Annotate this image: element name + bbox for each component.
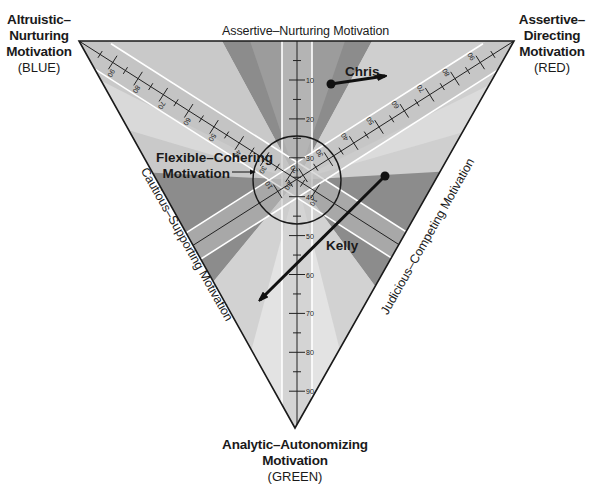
vertical-axis-tick-label: 90 [306,388,314,395]
flexible-cohering-label: Flexible–Cohering Motivation [156,150,264,182]
vertical-axis-tick-label: 30 [306,155,314,162]
vertical-axis-tick-label: 80 [306,349,314,356]
person-label-chris: Chris [345,64,380,79]
person-label-kelly: Kelly [326,238,358,253]
top-edge-label: Assertive–Nurturing Motivation [222,24,389,38]
red-corner-label: Assertive– Directing Motivation (RED) [513,12,591,76]
motivation-triangle-diagram: 102030405060708090 908070605040302010 90… [0,0,592,496]
vertical-axis-tick-label: 50 [306,233,314,240]
vertical-axis-tick-label: 60 [306,272,314,279]
vertical-axis-tick-label: 70 [306,310,314,317]
vertical-axis-tick-label: 10 [306,77,314,84]
blue-corner-label: Altruistic– Nurturing Motivation (BLUE) [2,12,76,76]
green-corner-label: Analytic–Autonomizing Motivation (GREEN) [195,437,395,485]
vertical-axis-tick-label: 20 [306,116,314,123]
